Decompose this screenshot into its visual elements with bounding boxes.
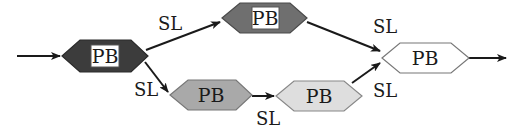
node-label: PB <box>412 47 439 69</box>
edge-label-e3: SL <box>256 108 280 129</box>
hexagon-node-n3: PB <box>170 80 252 110</box>
nodes-layer: PBPBPBPBPB <box>62 3 469 111</box>
node-label: PB <box>306 85 333 107</box>
edge-label-e4: SL <box>373 16 397 37</box>
edge-label-e5: SL <box>373 80 397 101</box>
hexagon-node-n5: PB <box>382 43 469 73</box>
hexagon-node-n1: PB <box>62 40 148 72</box>
node-label: PB <box>92 45 119 67</box>
edge-label-e2: SL <box>134 79 158 100</box>
hexagon-node-n2: PB <box>222 3 307 33</box>
edge-label-e1: SL <box>158 13 182 34</box>
pb-sl-flow-diagram: PBPBPBPBPB SLSLSLSLSL <box>0 0 517 132</box>
edge-arrow-e4 <box>307 22 380 51</box>
node-label: PB <box>252 7 279 29</box>
node-label: PB <box>198 84 225 106</box>
hexagon-node-n4: PB <box>276 81 362 111</box>
